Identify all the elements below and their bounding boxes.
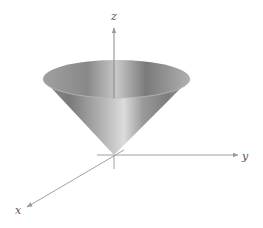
x-axis-label: x (15, 204, 22, 217)
cone-diagram: z y x (0, 0, 263, 228)
x-axis (27, 150, 124, 207)
z-axis-label: z (110, 10, 117, 23)
y-axis-label: y (241, 150, 249, 163)
